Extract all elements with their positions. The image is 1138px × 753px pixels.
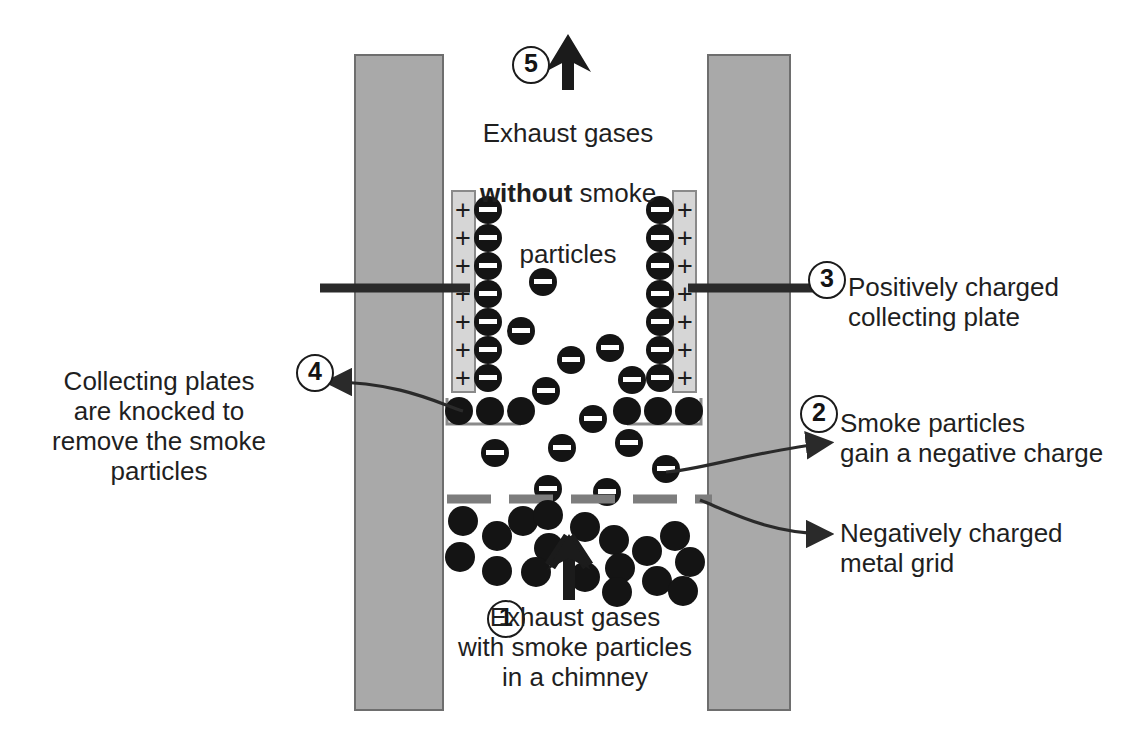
step-3-label: Positively charged collecting plate — [848, 272, 1133, 332]
svg-text:+: + — [455, 335, 471, 365]
step-5-line1: Exhaust gases — [483, 118, 654, 148]
collected-particles-right — [613, 397, 703, 425]
svg-text:+: + — [455, 307, 471, 337]
step-number-3: 3 — [808, 261, 846, 299]
step-5-emphasis: without — [480, 178, 572, 208]
svg-text:+: + — [677, 363, 693, 393]
step-1-label: Exhaust gases with smoke particles in a … — [425, 602, 725, 692]
diagram-canvas: ++ ++ ++ + ++ ++ ++ + — [0, 0, 1138, 753]
step-number-4: 4 — [296, 354, 334, 392]
step-2-label: Smoke particles gain a negative charge — [840, 408, 1138, 468]
svg-text:+: + — [677, 307, 693, 337]
step-5-line2b: smoke — [572, 178, 656, 208]
step-5-line3: particles — [520, 239, 617, 269]
step-4-label: Collecting plates are knocked to remove … — [28, 366, 290, 487]
svg-text:+: + — [455, 363, 471, 393]
step-number-2: 2 — [800, 395, 838, 433]
svg-text:+: + — [677, 335, 693, 365]
step-5-label: Exhaust gases without smoke particles — [443, 88, 693, 269]
exhaust-outlet-arrow — [545, 34, 591, 90]
step-number-5: 5 — [512, 46, 550, 84]
metal-grid-label: Negatively charged metal grid — [840, 518, 1138, 578]
